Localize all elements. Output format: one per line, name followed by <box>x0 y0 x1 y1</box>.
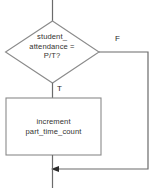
decision-node-label: student_ attendance = P/T? <box>5 32 99 61</box>
edge-label-false: F <box>115 35 120 43</box>
flowchart-graphics <box>0 0 157 188</box>
flowchart-canvas: student_ attendance = P/T? increment par… <box>0 0 157 188</box>
edge-label-true: T <box>57 85 62 93</box>
process-node-label: increment part_time_count <box>6 117 101 136</box>
